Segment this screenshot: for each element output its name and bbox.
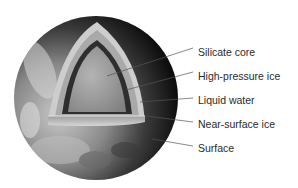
label-high-pressure-ice: High-pressure ice: [198, 70, 280, 82]
label-surface: Surface: [198, 142, 234, 154]
label-near-surface-ice: Near-surface ice: [198, 118, 275, 130]
label-silicate-core: Silicate core: [198, 46, 255, 58]
label-liquid-water: Liquid water: [198, 94, 255, 106]
